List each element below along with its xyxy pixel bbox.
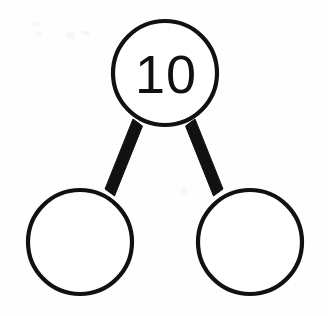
- bond-link-right: [186, 119, 224, 196]
- whole-node[interactable]: 10: [113, 21, 217, 125]
- bond-link-left: [105, 119, 143, 196]
- whole-node-label: 10: [135, 44, 197, 104]
- part-node-right[interactable]: [198, 190, 302, 294]
- number-bond-diagram: 10: [0, 0, 328, 316]
- part-node-left-circle[interactable]: [28, 190, 132, 294]
- part-node-right-circle[interactable]: [198, 190, 302, 294]
- number-bond-canvas: 10: [0, 0, 328, 316]
- part-node-left[interactable]: [28, 190, 132, 294]
